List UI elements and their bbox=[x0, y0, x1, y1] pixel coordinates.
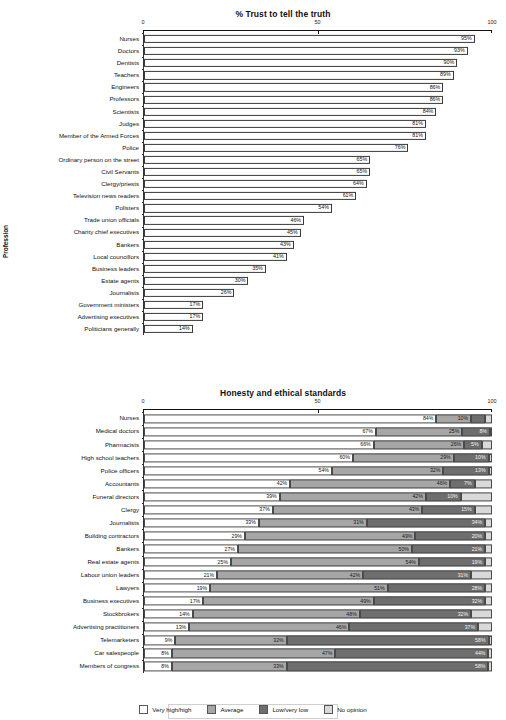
trust-bar-row: Dentists90% bbox=[0, 57, 506, 69]
trust-bar-row: Journalists26% bbox=[0, 287, 506, 299]
trust-bar-row: Bankers43% bbox=[0, 239, 506, 251]
honesty-category-label: Advertising practitioners bbox=[0, 624, 143, 630]
trust-bar-track: 76% bbox=[143, 142, 492, 154]
honesty-bar-track: 60%29%10% bbox=[143, 451, 492, 464]
trust-category-label: Charity chief executives bbox=[0, 229, 143, 235]
honesty-segment-1: 49% bbox=[245, 531, 416, 540]
legend-item[interactable]: Average bbox=[207, 705, 243, 714]
honesty-stacked-bar: 84%10% bbox=[144, 414, 492, 423]
honesty-segment-0: 84% bbox=[144, 414, 436, 423]
honesty-segment-3 bbox=[485, 544, 492, 553]
honesty-bar-row: Stockbrokers14%48%32% bbox=[0, 608, 506, 621]
honesty-bar-track: 42%46%7% bbox=[143, 477, 492, 490]
trust-bar-value: 90% bbox=[444, 61, 455, 66]
honesty-segment-value: 51% bbox=[374, 586, 384, 591]
honesty-segment-value: 31% bbox=[353, 520, 363, 525]
trust-bar-track: 45% bbox=[143, 227, 492, 239]
honesty-stacked-bar: 25%54%19% bbox=[144, 557, 492, 566]
honesty-stacked-bar: 39%42%10% bbox=[144, 492, 492, 501]
honesty-segment-value: 10% bbox=[447, 494, 457, 499]
trust-bar: 81% bbox=[144, 120, 426, 128]
honesty-category-label: Lawyers bbox=[0, 585, 143, 591]
honesty-segment-1: 29% bbox=[353, 453, 454, 462]
honesty-segment-0: 14% bbox=[144, 610, 193, 619]
trust-bar-track: 84% bbox=[143, 106, 492, 118]
honesty-segment-value: 42% bbox=[277, 481, 287, 486]
trust-bar-value: 84% bbox=[423, 109, 434, 114]
trust-bar-track: 54% bbox=[143, 202, 492, 214]
honesty-bar-row: High school teachers60%29%10% bbox=[0, 451, 506, 464]
honesty-segment-3 bbox=[485, 584, 492, 593]
trust-category-label: Pollsters bbox=[0, 205, 143, 211]
legend-item[interactable]: No opinion bbox=[324, 705, 367, 714]
honesty-segment-0: 13% bbox=[144, 623, 189, 632]
trust-bar: 89% bbox=[144, 71, 454, 79]
trust-category-label: Estate agents bbox=[0, 278, 143, 284]
trust-bar: 95% bbox=[144, 35, 475, 43]
honesty-segment-1: 46% bbox=[290, 479, 450, 488]
trust-category-label: Police bbox=[0, 145, 143, 151]
honesty-segment-value: 19% bbox=[472, 559, 482, 564]
trust-category-label: Judges bbox=[0, 121, 143, 127]
trust-bar-value: 86% bbox=[430, 85, 441, 90]
honesty-stacked-bar: 29%49%20% bbox=[144, 531, 492, 540]
honesty-segment-1: 43% bbox=[273, 505, 423, 514]
trust-bar: 17% bbox=[144, 301, 203, 309]
trust-bar: 14% bbox=[144, 325, 193, 333]
trust-bar-row: Politicians generally14% bbox=[0, 323, 506, 335]
honesty-segment-value: 28% bbox=[472, 586, 482, 591]
trust-bar-row: Clergy/priests64% bbox=[0, 178, 506, 190]
honesty-segment-value: 31% bbox=[458, 572, 468, 577]
honesty-bar-track: 67%25%8% bbox=[143, 425, 492, 438]
trust-bar-value: 43% bbox=[280, 242, 291, 247]
honesty-segment-0: 8% bbox=[144, 662, 172, 671]
honesty-segment-value: 37% bbox=[259, 507, 269, 512]
trust-bar-row: Professors86% bbox=[0, 93, 506, 105]
honesty-segment-1: 49% bbox=[203, 597, 374, 606]
honesty-category-label: Accountants bbox=[0, 481, 143, 487]
trust-y-axis-title: Profession bbox=[2, 225, 9, 258]
trust-category-label: Television news readers bbox=[0, 193, 143, 199]
honesty-segment-3 bbox=[475, 479, 492, 488]
honesty-stacked-bar: 27%50%21% bbox=[144, 544, 492, 553]
honesty-category-label: Medical doctors bbox=[0, 428, 143, 434]
honesty-segment-0: 21% bbox=[144, 570, 217, 579]
honesty-segment-value: 17% bbox=[190, 599, 200, 604]
trust-bar: 46% bbox=[144, 216, 304, 224]
honesty-segment-2: 32% bbox=[374, 597, 485, 606]
trust-bar: 43% bbox=[144, 241, 294, 249]
trust-bar-value: 46% bbox=[290, 218, 301, 223]
trust-category-label: Nurses bbox=[0, 36, 143, 42]
honesty-segment-value: 29% bbox=[232, 533, 242, 538]
honesty-segment-value: 60% bbox=[339, 455, 349, 460]
trust-bar-track: 61% bbox=[143, 190, 492, 202]
honesty-segment-value: 48% bbox=[346, 612, 356, 617]
trust-bar-row: Member of the Armed Forces81% bbox=[0, 130, 506, 142]
honesty-segment-2: 58% bbox=[287, 662, 489, 671]
trust-bar-row: Doctors93% bbox=[0, 45, 506, 57]
trust-bar-row: Ordinary person on the street65% bbox=[0, 154, 506, 166]
honesty-bar-track: 8%47%44% bbox=[143, 647, 492, 660]
honesty-segment-3 bbox=[488, 662, 491, 671]
honesty-category-label: Stockbrokers bbox=[0, 611, 143, 617]
legend-label: Very high/high bbox=[152, 706, 191, 713]
honesty-segment-value: 19% bbox=[197, 586, 207, 591]
honesty-segment-0: 37% bbox=[144, 505, 273, 514]
honesty-segment-value: 8% bbox=[479, 429, 487, 434]
honesty-bar-track: 39%42%10% bbox=[143, 490, 492, 503]
honesty-segment-value: 67% bbox=[362, 429, 372, 434]
honesty-segment-value: 10% bbox=[475, 455, 485, 460]
trust-bar-value: 81% bbox=[412, 121, 423, 126]
trust-bar-value: 61% bbox=[343, 194, 354, 199]
honesty-segment-2: 7% bbox=[450, 479, 474, 488]
trust-xtick-0: 0 bbox=[142, 19, 145, 25]
legend-item[interactable]: Very high/high bbox=[139, 705, 191, 714]
legend-item[interactable]: Low/very low bbox=[259, 705, 308, 714]
trust-bar: 45% bbox=[144, 228, 301, 236]
trust-bar-row: Engineers86% bbox=[0, 81, 506, 93]
honesty-bar-row: Real estate agents25%54%19% bbox=[0, 556, 506, 569]
honesty-segment-value: 58% bbox=[475, 664, 485, 669]
honesty-segment-value: 25% bbox=[449, 429, 459, 434]
honesty-bar-track: 25%54%19% bbox=[143, 556, 492, 569]
trust-bar-value: 95% bbox=[461, 36, 472, 41]
